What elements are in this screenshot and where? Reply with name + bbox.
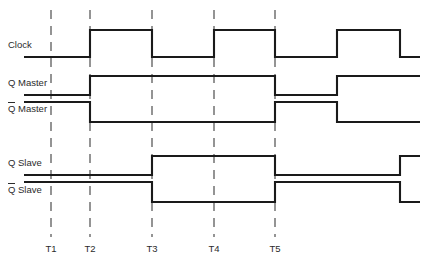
time-label-t2: T2 <box>84 243 95 254</box>
signal-label-q-master: Q Master <box>8 77 47 88</box>
signal-label-q-master-bar: Q Master <box>8 103 47 114</box>
time-label-t1: T1 <box>45 243 56 254</box>
signal-label-clock: Clock <box>8 39 32 50</box>
signal-label-q-slave-bar: Q Slave <box>8 184 42 195</box>
waveform-group <box>24 30 420 202</box>
waveform-q-slave <box>24 156 420 175</box>
signal-label-q-slave: Q Slave <box>8 157 42 168</box>
waveform-q-master <box>24 76 420 95</box>
time-label-t4: T4 <box>208 243 219 254</box>
waveform-q-slave-bar <box>24 182 420 202</box>
timing-diagram-figure: ClockQ MasterQ MasterQ SlaveQ Slave T1T2… <box>0 0 433 268</box>
waveform-q-master-bar <box>24 102 420 122</box>
waveform-clock <box>24 30 420 57</box>
signal-labels-group: ClockQ MasterQ MasterQ SlaveQ Slave <box>8 39 47 195</box>
time-label-t5: T5 <box>269 243 280 254</box>
time-label-t3: T3 <box>146 243 157 254</box>
time-labels-group: T1T2T3T4T5 <box>45 243 280 254</box>
timing-diagram-canvas: ClockQ MasterQ MasterQ SlaveQ Slave T1T2… <box>0 0 433 268</box>
